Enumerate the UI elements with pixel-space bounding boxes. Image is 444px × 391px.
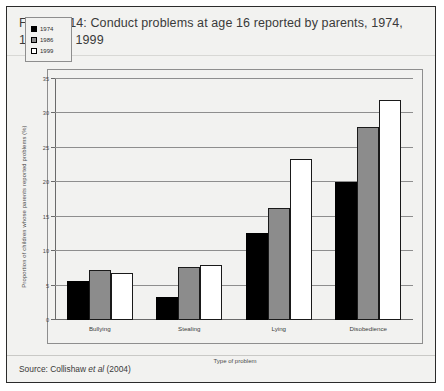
legend-item-1974[interactable]: 1974: [31, 23, 66, 34]
plot-area: 05101520253035BullyingStealingLyingDisob…: [55, 79, 413, 320]
x-tick-label: Lying: [234, 325, 324, 332]
bar-stealing-1986[interactable]: [178, 267, 200, 320]
bar-group: Lying: [234, 79, 324, 320]
bar-stealing-1974[interactable]: [156, 297, 178, 320]
legend-label: 1999: [40, 48, 53, 54]
bar-lying-1999[interactable]: [290, 159, 312, 320]
y-tick-label: 0: [46, 317, 49, 323]
legend-label: 1986: [40, 37, 53, 43]
source-italic: et al: [88, 364, 104, 374]
legend-label: 1974: [40, 26, 53, 32]
bar-group: Disobedience: [324, 79, 414, 320]
figure-title: Figure 2.14: Conduct problems at age 16 …: [19, 15, 419, 49]
bar-lying-1986[interactable]: [268, 208, 290, 320]
y-axis-title: Proportion of children whose parents rep…: [21, 69, 33, 344]
y-tick-label: 5: [46, 283, 49, 289]
legend-swatch-icon: [31, 48, 37, 54]
legend-swatch-icon: [31, 37, 37, 43]
y-tick-label: 25: [43, 145, 49, 151]
bar-lying-1974[interactable]: [246, 233, 268, 320]
y-tick-label: 20: [43, 179, 49, 185]
y-tick-label: 30: [43, 110, 49, 116]
x-tick-label: Bullying: [55, 325, 145, 332]
x-tick-label: Stealing: [145, 325, 235, 332]
legend-swatch-icon: [31, 26, 37, 32]
bar-group: Bullying: [55, 79, 145, 320]
y-tick-label: 35: [43, 76, 49, 82]
source-prefix: Source: Collishaw: [19, 364, 88, 374]
plot-frame: 05101520253035BullyingStealingLyingDisob…: [47, 69, 423, 344]
x-tick-label: Disobedience: [324, 325, 414, 332]
chart-legend: 197419861999: [25, 17, 72, 62]
y-tick-label: 15: [43, 214, 49, 220]
source-suffix: (2004): [104, 364, 131, 374]
bar-stealing-1999[interactable]: [200, 265, 222, 320]
bar-bullying-1986[interactable]: [89, 270, 111, 320]
legend-item-1999[interactable]: 1999: [31, 45, 66, 56]
bar-disobedience-1986[interactable]: [357, 127, 379, 320]
figure-container: Figure 2.14: Conduct problems at age 16 …: [6, 6, 436, 383]
source-note: Source: Collishaw et al (2004): [19, 364, 131, 374]
bar-disobedience-1974[interactable]: [335, 182, 357, 320]
y-tick-label: 10: [43, 248, 49, 254]
bar-group: Stealing: [145, 79, 235, 320]
source-divider: [7, 355, 435, 356]
bar-bullying-1974[interactable]: [67, 281, 89, 320]
bar-disobedience-1999[interactable]: [379, 100, 401, 320]
bar-bullying-1999[interactable]: [111, 273, 133, 321]
legend-item-1986[interactable]: 1986: [31, 34, 66, 45]
